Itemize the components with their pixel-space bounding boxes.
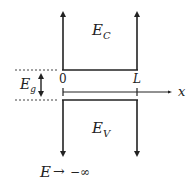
band-gap-indicator: Eg: [15, 70, 58, 100]
limit-lhs: E: [39, 163, 51, 181]
x-axis-label: x: [178, 84, 186, 99]
band-gap-label: Eg: [19, 76, 36, 94]
x-axis-origin-label: 0: [59, 72, 67, 86]
valence-band-well: EV: [62, 100, 138, 154]
band-diagram-svg: EC Eg 0 L x EV E → −∞: [0, 0, 193, 183]
band-gap-arrow-down-icon: [38, 91, 44, 97]
limit-rhs: −∞: [70, 165, 90, 179]
limit-arrow: →: [53, 163, 65, 179]
conduction-band-well: EC: [62, 14, 138, 70]
energy-limit-note: E → −∞: [39, 163, 90, 181]
band-gap-arrow-up-icon: [38, 73, 44, 79]
conduction-band-label: EC: [91, 21, 111, 41]
band-diagram: EC Eg 0 L x EV E → −∞: [0, 0, 193, 183]
x-axis-L-label: L: [132, 72, 141, 86]
valence-band-label: EV: [91, 119, 112, 139]
x-axis-arrow-icon: [168, 91, 172, 94]
x-axis: 0 L x: [59, 72, 186, 99]
